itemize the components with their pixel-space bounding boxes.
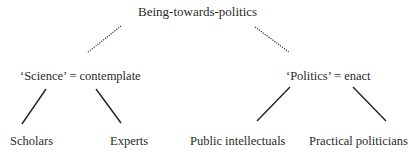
leaf-node-experts: Experts bbox=[110, 134, 148, 148]
edge-root-to-politics bbox=[255, 27, 289, 52]
tree-diagram: Being-towards-politics ‘Science’ = conte… bbox=[0, 0, 409, 155]
edge-root-to-science bbox=[87, 26, 121, 53]
edge-politics-to-practical-politicians bbox=[353, 87, 386, 121]
leaf-node-scholars: Scholars bbox=[10, 134, 53, 148]
branch-node-science: ‘Science’ = contemplate bbox=[20, 69, 141, 83]
leaf-node-practical-politicians: Practical politicians bbox=[309, 134, 408, 148]
edge-science-to-experts bbox=[96, 89, 121, 123]
edge-politics-to-public-intellectuals bbox=[257, 87, 290, 121]
edge-science-to-scholars bbox=[22, 89, 46, 124]
root-node-being-towards-politics: Being-towards-politics bbox=[138, 5, 257, 19]
leaf-node-public-intellectuals: Public intellectuals bbox=[190, 134, 285, 148]
branch-node-politics: ‘Politics’ = enact bbox=[286, 69, 371, 83]
